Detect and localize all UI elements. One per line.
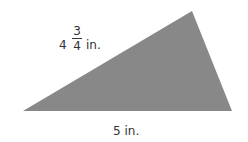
triangle <box>23 11 232 111</box>
triangle-diagram <box>0 0 248 142</box>
left-side-whole-number: 4 <box>59 39 67 51</box>
bottom-side-label: 5 in. <box>113 125 139 137</box>
fraction-numerator: 3 <box>72 25 82 37</box>
fraction-denominator: 4 <box>72 40 82 52</box>
left-side-unit: in. <box>86 39 101 51</box>
left-side-fraction: 3 4 <box>72 25 82 52</box>
